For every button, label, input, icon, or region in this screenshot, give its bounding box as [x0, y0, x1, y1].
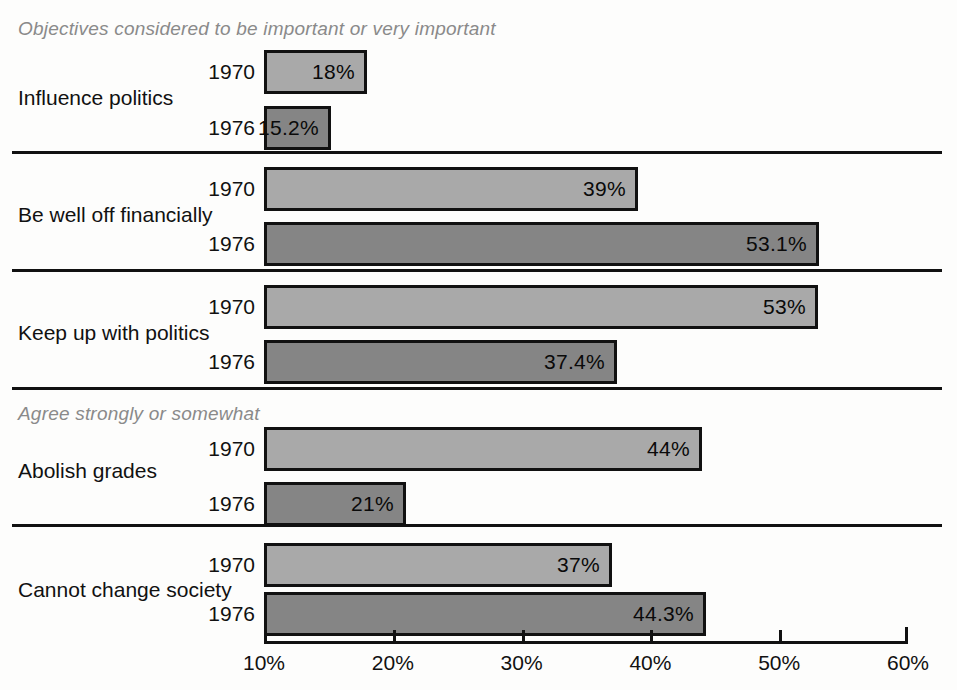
bar-value-label: 53.1%: [746, 232, 816, 256]
x-axis-tick-label-0: 10%: [243, 651, 285, 675]
x-axis-tick-label-3: 40%: [629, 651, 671, 675]
bar-year-label: 1976: [208, 106, 264, 150]
category-label-2: Keep up with politics: [18, 321, 209, 345]
bar-1970: 18%: [264, 50, 367, 94]
bar-value-label: 53%: [763, 295, 815, 319]
x-axis-line: [264, 641, 908, 644]
bar-1976: 53.1%: [264, 222, 819, 266]
bar-1976: 21%: [264, 482, 406, 526]
section-caption-3: Agree strongly or somewhat: [18, 403, 260, 425]
x-axis-tick-4: [779, 630, 782, 644]
bar-1970: 44%: [264, 427, 702, 471]
x-axis-tick-label-5: 60%: [887, 651, 929, 675]
group-separator-4: [12, 524, 942, 527]
bar-1970: 53%: [264, 285, 818, 329]
bar-year-label: 1976: [208, 340, 264, 384]
bar-year-label: 1970: [208, 50, 264, 94]
x-axis-tick-label-4: 50%: [758, 651, 800, 675]
bar-year-label: 1976: [208, 482, 264, 526]
bar-value-label: 21%: [351, 492, 403, 516]
section-caption-0: Objectives considered to be important or…: [18, 18, 496, 40]
bar-1976: 37.4%: [264, 340, 617, 384]
bar-1970: 37%: [264, 543, 612, 587]
bar-value-label: 37%: [557, 553, 609, 577]
bar-1976: 15.2%: [264, 106, 331, 150]
bar-year-label: 1970: [208, 285, 264, 329]
category-label-1: Be well off financially: [18, 203, 213, 227]
bar-value-label: 44%: [647, 437, 699, 461]
category-label-4: Cannot change society: [18, 578, 232, 602]
bar-value-label: 39%: [583, 177, 635, 201]
group-separator-1: [12, 151, 942, 154]
bar-1976: 44.3%: [264, 592, 706, 636]
category-label-0: Influence politics: [18, 86, 173, 110]
category-label-3: Abolish grades: [18, 459, 157, 483]
bar-year-label: 1976: [208, 222, 264, 266]
bar-year-label: 1970: [208, 167, 264, 211]
x-axis-tick-label-2: 30%: [501, 651, 543, 675]
bar-1970: 39%: [264, 167, 638, 211]
bar-year-label: 1970: [208, 543, 264, 587]
bar-value-label: 15.2%: [258, 116, 328, 140]
group-separator-2: [12, 269, 942, 272]
bar-value-label: 44.3%: [633, 602, 703, 626]
bar-value-label: 37.4%: [544, 350, 614, 374]
bar-year-label: 1976: [208, 592, 264, 636]
bar-year-label: 1970: [208, 427, 264, 471]
x-axis-tick-5: [905, 627, 908, 644]
x-axis-tick-label-1: 20%: [372, 651, 414, 675]
group-separator-3: [12, 387, 942, 390]
bar-value-label: 18%: [312, 60, 364, 84]
bar-chart-figure: Objectives considered to be important or…: [0, 0, 957, 690]
